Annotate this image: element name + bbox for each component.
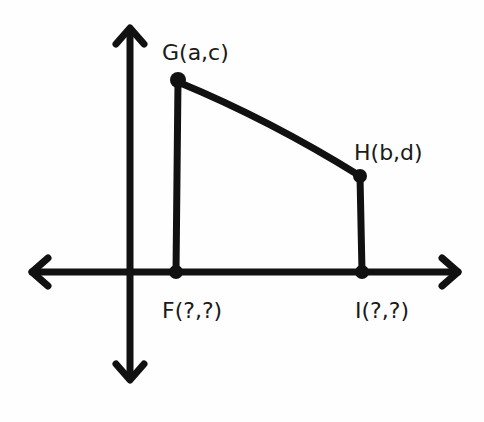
segment-gh [178, 82, 360, 176]
label-h: H(b,d) [354, 142, 423, 164]
point-g [170, 72, 186, 88]
label-g: G(a,c) [162, 42, 229, 64]
point-f [169, 265, 183, 279]
label-f: F(?,?) [162, 300, 222, 322]
segment-gf [176, 80, 178, 272]
segment-hi [360, 176, 362, 272]
point-h [353, 169, 367, 183]
point-i [355, 265, 369, 279]
diagram-canvas: G(a,c) H(b,d) F(?,?) I(?,?) [0, 0, 484, 422]
coordinate-plane [0, 0, 484, 422]
label-i: I(?,?) [355, 300, 409, 322]
